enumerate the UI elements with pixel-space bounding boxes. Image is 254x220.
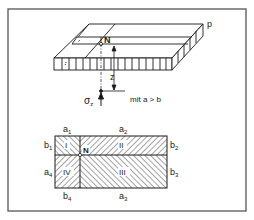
diagram-canvas: N p z σz mit a > b I II IV III — [0, 0, 254, 220]
stress-diagram: N p z σz mit a > b I II IV III — [0, 0, 254, 220]
label-a4: a4 — [44, 167, 53, 178]
slab-3d — [54, 24, 203, 70]
sigma-arrow — [99, 90, 104, 106]
condition-text: mit a > b — [130, 95, 161, 104]
label-a3: a3 — [119, 191, 128, 202]
label-region-i: I — [65, 141, 67, 150]
plan-view — [55, 136, 167, 188]
label-z: z — [110, 72, 115, 82]
plan-point-n — [78, 153, 81, 156]
label-n: N — [104, 35, 111, 45]
label-b1: b1 — [44, 140, 53, 151]
label-a1: a1 — [63, 124, 72, 135]
label-p: p — [207, 19, 212, 29]
label-plan-n: N — [83, 146, 89, 155]
label-region-iv: IV — [63, 168, 71, 177]
label-b3: b3 — [170, 167, 179, 178]
label-region-iii: III — [119, 168, 126, 177]
label-region-ii: II — [119, 141, 123, 150]
label-a2: a2 — [119, 124, 128, 135]
label-sigma: σz — [84, 95, 93, 107]
label-b4: b4 — [63, 191, 72, 202]
label-b2: b2 — [170, 140, 179, 151]
